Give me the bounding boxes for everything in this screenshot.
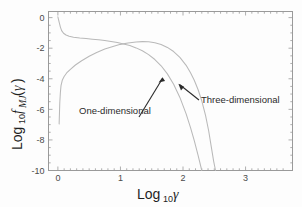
x-tick-label: 2 (181, 173, 186, 183)
y-axis-title-subscript: 10 (17, 114, 27, 124)
x-axis-title-subscript: 10 (163, 194, 173, 204)
curve-one-dimensional (58, 17, 202, 171)
y-axis-title-main: Log (9, 127, 25, 150)
y-tick-label: -4 (36, 74, 44, 84)
y-axis-title: Log 10 f MJ ( γ ) (9, 78, 28, 150)
y-axis-tick-labels: 0-2-4-6-8-10 (31, 13, 44, 176)
y-tick-label: -8 (36, 135, 44, 145)
axis-tick-marks (49, 12, 293, 171)
plot-frame (49, 12, 293, 171)
x-axis-tick-labels: 0123 (55, 173, 248, 183)
x-tick-label: 3 (243, 173, 248, 183)
x-tick-label: 0 (55, 173, 60, 183)
x-tick-label: 1 (118, 173, 123, 183)
x-axis-title-variable: γ (173, 187, 179, 202)
x-axis-title: Log 10 γ (137, 186, 179, 204)
chart-canvas: 0123 0-2-4-6-8-10 One-dimensional Three-… (0, 0, 302, 207)
annotation-one-dimensional: One-dimensional (79, 105, 151, 116)
y-tick-label: -2 (36, 43, 44, 53)
y-axis-title-paren-close: ) (9, 78, 25, 83)
x-axis-title-main: Log (137, 186, 160, 202)
y-axis-title-variable: γ (10, 85, 25, 91)
y-tick-label: 0 (39, 13, 44, 23)
figure-root: 0123 0-2-4-6-8-10 One-dimensional Three-… (0, 0, 302, 207)
y-tick-label: -10 (31, 166, 44, 176)
annotation-three-dimensional: Three-dimensional (201, 94, 280, 105)
y-tick-label: -6 (36, 105, 44, 115)
